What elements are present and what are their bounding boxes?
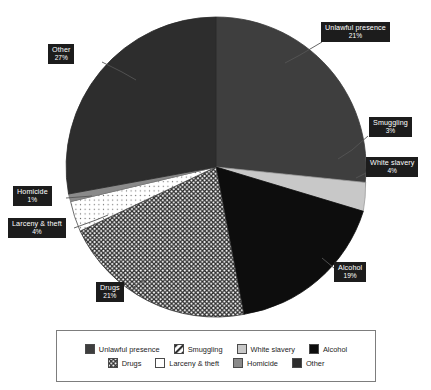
callout-label: Other [52,46,70,54]
legend-row-1: Unlawful presence Smuggling White slaver… [85,344,347,354]
pie-slices [66,17,366,317]
legend-label: Alcohol [323,345,347,354]
legend-label: Drugs [122,359,142,368]
callout-label: Homicide [17,188,48,196]
legend-item-unlawful-presence[interactable]: Unlawful presence [85,344,160,354]
legend-swatch-icon [237,344,247,354]
callout-percent: 21% [325,32,386,39]
legend-label: Unlawful presence [99,345,160,354]
legend-item-larceny-theft[interactable]: Larceny & theft [155,358,219,368]
callout-label: Unlawful presence [325,24,386,32]
legend-label: Other [306,359,324,368]
legend-swatch-icon [85,344,95,354]
callout-percent: 4% [370,167,414,174]
pie-slice-other[interactable] [66,17,216,194]
legend-swatch-icon [174,344,184,354]
legend-item-homicide[interactable]: Homicide [233,358,278,368]
callout-percent: 21% [100,292,120,299]
callout-label: Alcohol [338,264,362,272]
legend-label: Homicide [247,359,278,368]
legend-row-2: Drugs Larceny & theft Homicide Other [108,358,325,368]
chart-legend: Unlawful presence Smuggling White slaver… [56,330,376,382]
legend-item-alcohol[interactable]: Alcohol [309,344,347,354]
callout-drugs[interactable]: Drugs 21% [96,282,124,302]
callout-other[interactable]: Other 27% [48,44,74,64]
callout-label: Larceny & theft [12,220,62,228]
callout-label: Smuggling [373,119,408,127]
callout-larceny-theft[interactable]: Larceny & theft 4% [8,218,66,238]
legend-label: Smuggling [188,345,223,354]
legend-item-smuggling[interactable]: Smuggling [174,344,223,354]
callout-white-slavery[interactable]: White slavery 4% [366,157,418,177]
legend-swatch-icon [292,358,302,368]
legend-swatch-icon [108,358,118,368]
legend-swatch-icon [233,358,243,368]
callout-percent: 19% [338,272,362,279]
callout-unlawful-presence[interactable]: Unlawful presence 21% [321,22,390,42]
callout-percent: 27% [52,54,70,61]
callout-smuggling[interactable]: Smuggling 3% [369,117,412,137]
legend-swatch-icon [155,358,165,368]
legend-item-other[interactable]: Other [292,358,324,368]
legend-item-drugs[interactable]: Drugs [108,358,142,368]
callout-label: Drugs [100,284,120,292]
legend-label: Larceny & theft [169,359,219,368]
pie-chart-figure: Unlawful presence 21% Smuggling 3% White… [0,0,431,390]
callout-homicide[interactable]: Homicide 1% [13,186,52,206]
callout-percent: 4% [12,228,62,235]
callout-label: White slavery [370,159,414,167]
legend-item-white-slavery[interactable]: White slavery [237,344,295,354]
legend-swatch-icon [309,344,319,354]
callout-percent: 1% [17,196,48,203]
callout-alcohol[interactable]: Alcohol 19% [334,262,366,282]
callout-percent: 3% [373,127,408,134]
legend-label: White slavery [251,345,295,354]
